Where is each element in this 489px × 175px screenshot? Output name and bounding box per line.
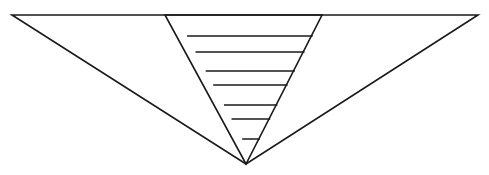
inner-triangle-group (165, 15, 322, 164)
figure-canvas (0, 0, 489, 175)
outer-inverted-triangle (12, 15, 478, 164)
hatch-line-group (187, 36, 313, 139)
inverted-triangle-diagram (0, 0, 489, 175)
outer-triangle-group (12, 15, 478, 164)
inner-inverted-triangle (165, 15, 322, 164)
